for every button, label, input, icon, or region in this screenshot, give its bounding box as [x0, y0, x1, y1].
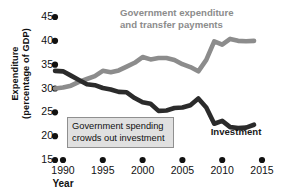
axis-tick-dot: [219, 157, 225, 163]
series-label-expenditure-line2: and transfer payments: [120, 19, 270, 31]
axis-tick-dot: [52, 62, 58, 68]
axis-tick-dot: [140, 157, 146, 163]
callout-line1: Government spending: [72, 121, 173, 133]
callout-line2: crowds out investment: [72, 133, 173, 145]
chart-container: Expenditure (percentage of GDP) 45 40 35…: [0, 0, 287, 196]
series-label-investment: Investment: [200, 126, 272, 138]
axis-tick-dot: [52, 133, 58, 139]
axis-tick-dot: [259, 157, 265, 163]
series-label-expenditure-line1: Government expenditure: [120, 7, 270, 19]
axis-tick-dot: [60, 157, 66, 163]
axis-tick-dot: [52, 157, 58, 163]
crowding-out-callout: Government spending crowds out investmen…: [67, 117, 174, 148]
axis-tick-dot: [52, 109, 58, 115]
axis-tick-dot: [52, 14, 58, 20]
axis-tick-dot: [52, 38, 58, 44]
series-label-government-expenditure: Government expenditure and transfer paym…: [120, 7, 270, 30]
axis-tick-dot: [179, 157, 185, 163]
axis-tick-dot: [100, 157, 106, 163]
